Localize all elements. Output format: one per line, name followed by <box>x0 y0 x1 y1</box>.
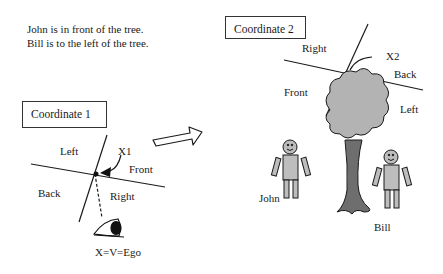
origin-point-x1 <box>94 172 99 177</box>
coordinate-1-axes <box>31 135 165 222</box>
coord1-left-label: Left <box>60 145 78 158</box>
eye-icon <box>94 219 124 237</box>
tree-trunk <box>337 140 370 214</box>
viewer-label: X=V=Ego <box>95 246 141 259</box>
coord1-right-label: Right <box>110 190 134 203</box>
coord2-origin-label: X2 <box>386 50 399 63</box>
bill-label: Bill <box>374 221 391 234</box>
john-figure-icon <box>271 140 310 198</box>
transition-arrow-icon <box>153 127 202 146</box>
coord2-front-label: Front <box>284 86 308 99</box>
coord1-front-label: Front <box>129 163 153 176</box>
coord2-back-label: Back <box>394 68 417 81</box>
tree-icon <box>326 68 389 214</box>
tree-crown <box>326 68 389 138</box>
john-label: John <box>259 192 280 205</box>
x1-arrowhead <box>100 167 111 177</box>
coord1-back-label: Back <box>38 187 61 200</box>
coord1-origin-label: X1 <box>118 145 131 158</box>
bill-figure-icon <box>372 150 411 208</box>
coord2-left-label: Left <box>400 103 418 116</box>
coord2-right-label: Right <box>302 42 326 55</box>
